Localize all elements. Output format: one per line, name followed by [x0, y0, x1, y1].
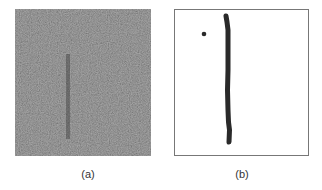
caption-a: (a) [68, 168, 108, 180]
binary-image [175, 10, 308, 155]
faint-streak [66, 54, 70, 139]
noise-image [15, 9, 151, 156]
caption-b: (b) [222, 168, 262, 180]
panel-a-noisy-image [15, 9, 151, 156]
panel-b-binary-image [174, 9, 309, 156]
vertical-line [226, 16, 230, 142]
isolated-dot [202, 32, 207, 37]
